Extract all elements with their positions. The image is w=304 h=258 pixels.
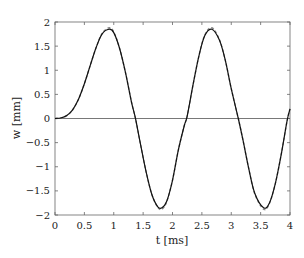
x-tick-labels: 00.511.522.533.54	[52, 220, 293, 231]
x-tick-label: 1.5	[135, 220, 151, 231]
x-tick-label: 3.5	[253, 220, 269, 231]
y-tick-labels: −2−1.5−1−0.500.511.52	[26, 17, 50, 221]
x-tick-label: 2.5	[194, 220, 210, 231]
y-axis-label: w [mm]	[10, 97, 23, 139]
y-tick-label: −1.5	[26, 185, 50, 196]
y-tick-label: 1	[44, 65, 50, 76]
x-tick-label: 4	[287, 220, 293, 231]
y-tick-label: 0	[44, 113, 50, 124]
y-tick-label: −0.5	[26, 137, 50, 148]
x-tick-label: 2	[169, 220, 175, 231]
y-tick-label: 1.5	[34, 41, 50, 52]
x-tick-label: 1	[111, 220, 117, 231]
y-tick-label: 0.5	[34, 89, 50, 100]
y-tick-label: −2	[35, 210, 50, 221]
x-tick-label: 0	[52, 220, 58, 231]
y-tick-label: 2	[44, 17, 50, 28]
line-chart: 00.511.522.533.54 −2−1.5−1−0.500.511.52 …	[0, 0, 304, 258]
x-axis-label: t [ms]	[156, 234, 189, 247]
y-tick-label: −1	[35, 161, 50, 172]
x-tick-label: 3	[228, 220, 234, 231]
x-tick-label: 0.5	[76, 220, 92, 231]
